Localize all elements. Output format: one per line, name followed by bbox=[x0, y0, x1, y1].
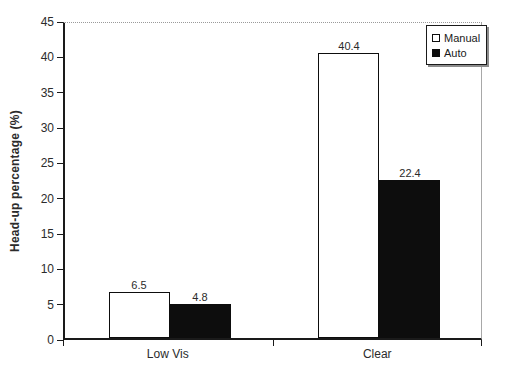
y-axis-tick-label: 45 bbox=[18, 14, 54, 30]
y-axis-tick bbox=[57, 92, 63, 93]
y-axis-tick-label: 40 bbox=[18, 49, 54, 65]
legend-label-manual: Manual bbox=[444, 32, 480, 44]
y-axis-tick-label: 10 bbox=[18, 261, 54, 277]
y-axis-tick bbox=[57, 234, 63, 235]
x-category-label: Low Vis bbox=[108, 347, 228, 361]
bar-chart: Head-up percentage (%) 6.54.840.422.4 Ma… bbox=[0, 0, 507, 378]
y-axis-tick bbox=[57, 22, 63, 23]
y-axis-tick-label: 25 bbox=[18, 155, 54, 171]
y-axis-tick bbox=[57, 57, 63, 58]
manual-series-swatch-icon bbox=[432, 34, 440, 42]
y-axis-tick-label: 15 bbox=[18, 226, 54, 242]
y-axis-tick bbox=[57, 163, 63, 164]
y-axis-title: Head-up percentage (%) bbox=[8, 22, 24, 340]
plot-area: 6.54.840.422.4 Manual Auto bbox=[63, 22, 482, 340]
legend-item-auto: Auto bbox=[432, 45, 480, 60]
y-axis-tick-label: 20 bbox=[18, 191, 54, 207]
auto-series-swatch-icon bbox=[432, 49, 440, 57]
bar-value-label: 40.4 bbox=[319, 39, 379, 53]
auto-bar-clear bbox=[379, 180, 440, 338]
y-axis-tick bbox=[57, 198, 63, 199]
manual-bar-clear bbox=[318, 53, 379, 338]
x-category-label: Clear bbox=[317, 347, 437, 361]
y-axis-tick bbox=[57, 304, 63, 305]
auto-bar-low-vis bbox=[170, 304, 231, 338]
y-axis-tick bbox=[57, 128, 63, 129]
bar-value-label: 6.5 bbox=[109, 278, 169, 292]
x-axis-tick bbox=[481, 340, 482, 346]
manual-bar-low-vis bbox=[109, 292, 170, 338]
bar-value-label: 22.4 bbox=[380, 166, 440, 180]
y-axis-tick-label: 35 bbox=[18, 85, 54, 101]
y-axis-tick bbox=[57, 269, 63, 270]
bar-value-label: 4.8 bbox=[170, 290, 230, 304]
legend-label-auto: Auto bbox=[444, 47, 467, 59]
legend: Manual Auto bbox=[426, 25, 487, 65]
legend-item-manual: Manual bbox=[432, 30, 480, 45]
x-axis-tick bbox=[63, 340, 64, 346]
y-axis-tick-label: 30 bbox=[18, 120, 54, 136]
y-axis-tick-label: 5 bbox=[18, 297, 54, 313]
y-axis-tick-label: 0 bbox=[18, 332, 54, 348]
x-axis-tick bbox=[273, 340, 274, 346]
